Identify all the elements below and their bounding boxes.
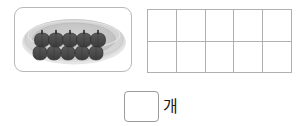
ten-frame-cell[interactable] xyxy=(263,42,292,74)
plate-illustration xyxy=(15,8,131,71)
ten-frame-cell[interactable] xyxy=(148,10,177,42)
ten-frame-grid xyxy=(147,9,292,73)
ten-frame-cell[interactable] xyxy=(177,42,206,74)
ten-frame-cell[interactable] xyxy=(234,42,263,74)
answer-unit-label: 개 xyxy=(163,99,178,115)
ten-frame-cell[interactable] xyxy=(206,42,235,74)
fruit-plate-panel xyxy=(14,7,132,72)
answer-row: 개 xyxy=(124,91,178,122)
ten-frame-cell[interactable] xyxy=(234,10,263,42)
ten-frame-cell[interactable] xyxy=(177,10,206,42)
answer-input-box[interactable] xyxy=(124,91,159,122)
plate-with-fruit-icon xyxy=(20,14,128,67)
ten-frame-cell[interactable] xyxy=(263,10,292,42)
worksheet-canvas: 개 xyxy=(0,0,305,126)
ten-frame-cell[interactable] xyxy=(206,10,235,42)
ten-frame-cell[interactable] xyxy=(148,42,177,74)
